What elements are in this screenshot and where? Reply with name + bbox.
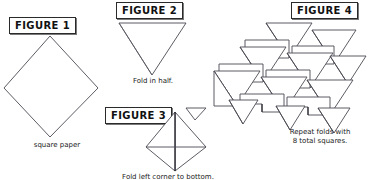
figure-4-caption-line-2: 8 total squares. xyxy=(272,137,368,146)
diagram-canvas: FIGURE 1 square paper FIGURE 2 Fold in h… xyxy=(0,0,370,180)
figure-4-drawing xyxy=(0,0,370,180)
figure-4-caption-line-1: Repeat folds with xyxy=(272,128,368,137)
cluster-left-stray xyxy=(186,108,206,120)
